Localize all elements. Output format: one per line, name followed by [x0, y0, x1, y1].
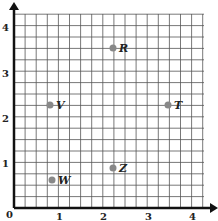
x-tick-1: 1 — [56, 211, 63, 221]
point-r — [110, 45, 117, 52]
x-tick-3: 3 — [145, 211, 152, 221]
point-v — [47, 102, 54, 109]
point-w — [49, 177, 56, 184]
y-axis-arrow-icon — [9, 2, 19, 10]
point-t — [165, 102, 172, 109]
x-tick-2: 2 — [100, 211, 107, 221]
origin-label: 0 — [6, 209, 13, 220]
y-tick-3: 3 — [2, 68, 9, 79]
point-v-label: V — [56, 99, 66, 112]
point-z-label: Z — [118, 162, 128, 175]
y-tick-1: 1 — [2, 158, 9, 169]
coordinate-grid: 0 1 2 3 4 1 2 3 4 R V T Z W — [0, 0, 218, 221]
y-tick-2: 2 — [2, 113, 9, 124]
x-tick-4: 4 — [189, 211, 196, 221]
point-r-label: R — [118, 42, 128, 55]
y-tick-4: 4 — [2, 22, 9, 33]
point-t-label: T — [174, 99, 183, 112]
x-axis-arrow-icon — [210, 203, 218, 213]
point-z — [110, 165, 117, 172]
point-w-label: W — [58, 174, 72, 187]
